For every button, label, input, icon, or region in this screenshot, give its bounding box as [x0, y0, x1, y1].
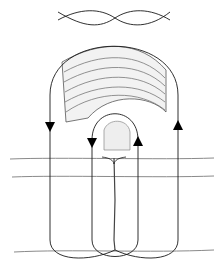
strata-lines — [10, 158, 214, 252]
arrow-down-icon — [87, 138, 97, 148]
twisted-top-lines — [58, 11, 170, 25]
arrow-up-icon — [133, 136, 143, 146]
arrow-down-icon — [45, 122, 55, 132]
arrow-up-icon — [173, 120, 183, 130]
banded-arch — [62, 46, 166, 122]
diagram-figure — [0, 0, 224, 271]
inner-blob — [104, 121, 130, 150]
crack-line — [114, 158, 115, 250]
